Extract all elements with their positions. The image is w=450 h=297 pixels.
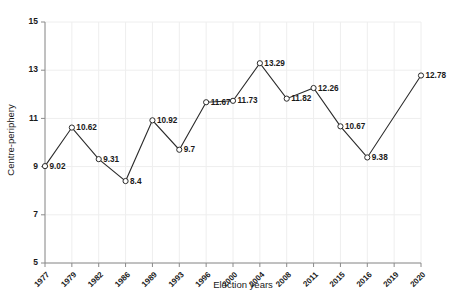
data-point-label: 9.31 xyxy=(103,155,119,164)
gridlines xyxy=(45,22,421,263)
svg-text:5: 5 xyxy=(33,257,38,267)
svg-text:1979: 1979 xyxy=(59,270,78,289)
svg-text:1977: 1977 xyxy=(32,270,51,289)
data-point-label: 9.02 xyxy=(50,162,66,171)
svg-text:13: 13 xyxy=(29,64,39,74)
svg-text:1989: 1989 xyxy=(140,270,159,289)
chart-container: 151311975 197719791982198619891993199620… xyxy=(0,0,450,297)
svg-text:1993: 1993 xyxy=(167,270,186,289)
data-point-marker xyxy=(257,61,262,66)
data-point-marker xyxy=(284,96,289,101)
data-point-label: 10.67 xyxy=(345,122,366,131)
svg-text:11: 11 xyxy=(29,113,38,123)
data-point-label: 13.29 xyxy=(264,59,285,68)
data-point-label: 11.73 xyxy=(238,96,258,105)
svg-text:15: 15 xyxy=(29,16,39,26)
x-axis-title: Election years xyxy=(213,279,273,290)
data-point-marker xyxy=(365,155,370,160)
data-point-marker xyxy=(96,157,101,162)
data-point-marker xyxy=(123,178,128,183)
svg-text:2020: 2020 xyxy=(408,270,427,289)
data-point-label: 9.38 xyxy=(372,153,388,162)
line-chart: 151311975 197719791982198619891993199620… xyxy=(0,0,450,297)
y-axis-title: Centre-periphery xyxy=(5,104,16,176)
svg-text:1986: 1986 xyxy=(113,270,132,289)
data-point-label: 11.82 xyxy=(291,94,311,103)
data-point-label: 10.92 xyxy=(157,116,178,125)
y-axis-ticks: 151311975 xyxy=(29,16,45,267)
data-point-label: 9.7 xyxy=(184,145,196,154)
data-point-marker xyxy=(338,124,343,129)
data-point-marker xyxy=(42,164,47,169)
data-point-marker xyxy=(69,125,74,130)
svg-text:2011: 2011 xyxy=(301,270,320,289)
data-point-label: 11.67 xyxy=(211,98,231,107)
svg-text:2019: 2019 xyxy=(382,270,401,289)
svg-text:1982: 1982 xyxy=(86,270,105,289)
data-point-label: 12.78 xyxy=(426,71,447,80)
svg-text:2016: 2016 xyxy=(355,270,374,289)
data-point-marker xyxy=(204,100,209,105)
data-point-marker xyxy=(177,147,182,152)
data-point-marker xyxy=(311,85,316,90)
svg-text:7: 7 xyxy=(33,209,38,219)
data-point-marker xyxy=(230,98,235,103)
data-point-marker xyxy=(418,73,423,78)
data-point-marker xyxy=(150,118,155,123)
svg-text:2008: 2008 xyxy=(274,270,293,289)
svg-text:9: 9 xyxy=(33,161,38,171)
data-point-label: 12.26 xyxy=(318,84,339,93)
data-point-label: 10.62 xyxy=(76,123,97,132)
svg-text:2015: 2015 xyxy=(328,270,347,289)
data-point-label: 8.4 xyxy=(130,177,142,186)
svg-text:1996: 1996 xyxy=(194,270,213,289)
